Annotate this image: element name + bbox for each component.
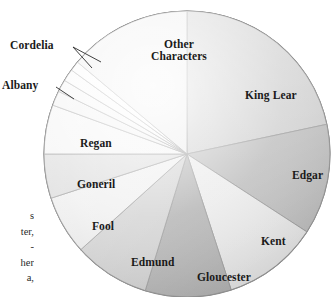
page-body-text-fragment: ster,-hera, <box>0 208 34 294</box>
callout-label-cordelia: Cordelia <box>10 39 54 51</box>
slice-label-edmund: Edmund <box>131 256 174 268</box>
slice-label-kent: Kent <box>261 235 286 247</box>
slice-label-regan: Regan <box>80 137 112 149</box>
other-characters-line2: Characters <box>151 50 207 62</box>
body-text-line: ter, <box>0 224 34 240</box>
slice-label-goneril: Goneril <box>77 178 115 190</box>
body-text-line: s <box>0 208 34 224</box>
slice-label-king-lear: King Lear <box>245 89 297 101</box>
body-text-line: - <box>0 239 34 255</box>
slice-label-other-characters: Other Characters <box>151 38 207 62</box>
slice-label-gloucester: Gloucester <box>197 271 251 283</box>
callout-label-albany: Albany <box>2 79 38 91</box>
slice-label-fool: Fool <box>92 220 114 232</box>
body-text-line: a, <box>0 270 34 286</box>
other-characters-line1: Other <box>164 38 194 50</box>
figure-canvas: King LearEdgarKentGloucesterEdmundFoolGo… <box>0 0 335 297</box>
slice-label-edgar: Edgar <box>292 169 323 181</box>
body-text-line: her <box>0 255 34 271</box>
